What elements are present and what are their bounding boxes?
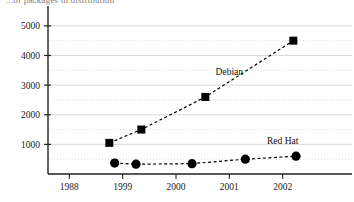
axis-lines (48, 6, 352, 174)
x-axis-labels: 19881999200020012002 (60, 182, 293, 192)
y-axis-labels: 10002000300040005000 (21, 21, 40, 150)
svg-text:2001: 2001 (220, 182, 239, 192)
svg-text:5000: 5000 (21, 21, 40, 31)
svg-text:3000: 3000 (21, 81, 40, 91)
svg-text:4000: 4000 (21, 51, 40, 61)
chart-container: ...of packages in distribution 100020003… (0, 0, 354, 202)
minor-gridlines (48, 26, 352, 159)
svg-text:1000: 1000 (21, 140, 40, 150)
svg-text:2002: 2002 (273, 182, 292, 192)
chart-plot-area: 10002000300040005000 1988199920002001200… (0, 0, 354, 202)
svg-text:1988: 1988 (60, 182, 79, 192)
svg-text:2000: 2000 (21, 110, 40, 120)
x-axis-ticks (69, 174, 282, 179)
svg-text:1999: 1999 (113, 182, 132, 192)
series-annotations: DebianRed Hat (216, 67, 299, 146)
data-series (105, 37, 300, 169)
svg-text:Red Hat: Red Hat (267, 136, 299, 146)
major-gridlines (48, 26, 352, 145)
svg-text:Debian: Debian (216, 67, 244, 77)
svg-text:2000: 2000 (167, 182, 186, 192)
